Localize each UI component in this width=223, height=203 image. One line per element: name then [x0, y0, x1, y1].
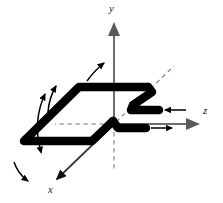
bottom-left-curved-arrow: [14, 162, 28, 181]
figure-container: y z x: [0, 0, 223, 203]
wire-loop-outline: [24, 87, 148, 141]
wire-loop-coordinate-diagram: [0, 0, 223, 203]
x-axis-label: x: [48, 184, 53, 195]
y-axis-label: y: [109, 3, 114, 14]
top-curved-arrow: [87, 63, 104, 81]
axis-solid-lines: [57, 24, 198, 179]
rotation-arrows: [14, 63, 104, 181]
wire-lower-lead: [113, 121, 146, 128]
z-axis-label: z: [203, 105, 207, 116]
